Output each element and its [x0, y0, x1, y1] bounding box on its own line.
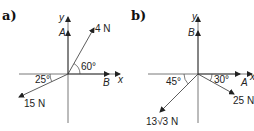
angle-arc-30: [210, 74, 212, 81]
label-B-a: B: [103, 77, 110, 88]
label-A-a: A: [58, 27, 66, 38]
label-25N: 25 N: [233, 95, 254, 106]
label-A-b: A: [240, 77, 248, 88]
label-B-b: B: [188, 27, 195, 38]
part-label-b: b): [131, 8, 146, 23]
label-4N: 4 N: [95, 23, 111, 34]
diagram-b: b) y B 30° A x 45° 25 N 13√3 N: [131, 8, 254, 127]
label-y-a: y: [58, 12, 65, 23]
label-30: 30°: [214, 74, 229, 85]
sqrt3: √3: [157, 116, 168, 127]
part-label-a: a): [2, 8, 17, 23]
label-60: 60°: [81, 61, 96, 72]
label-13root3N: 13√3 N: [146, 116, 178, 127]
label-x-a: x: [117, 74, 124, 85]
angle-arc-60: [74, 64, 80, 74]
diagram-a: a) y A 4 N 60° 25° B x 15 N: [2, 8, 124, 123]
angle-arc-45: [184, 74, 188, 84]
unit-N: N: [168, 116, 178, 127]
label-y-b: y: [191, 11, 198, 22]
label-45: 45°: [166, 76, 181, 87]
angle-arc-25: [50, 74, 52, 82]
force-diagrams: a) y A 4 N 60° 25° B x 15 N b): [0, 0, 254, 131]
label-15N: 15 N: [24, 98, 45, 109]
coef-13: 13: [146, 116, 158, 127]
label-25: 25°: [35, 74, 50, 85]
label-x-b: x: [249, 71, 254, 82]
